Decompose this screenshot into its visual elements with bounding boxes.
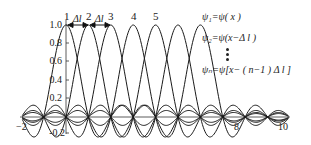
legend-psi1: ψ₁=ψ( x ) (202, 12, 241, 22)
y-tick-label: 0.6 (40, 56, 62, 66)
peak-label: 3 (108, 11, 114, 22)
peak-label: 2 (86, 11, 92, 22)
delta-l-annotation: Δl (95, 14, 104, 24)
peak-label: 5 (153, 11, 159, 22)
y-tick-label: -0.2 (43, 128, 65, 138)
y-tick-label: 0.4 (40, 75, 62, 85)
legend-psin: ψₙ=ψ[x− ( n−1 ) Δ l ] (202, 65, 291, 75)
y-tick-label: 0.2 (40, 93, 62, 103)
delta-l-annotation: Δl (73, 14, 82, 24)
x-tick-label: 8 (234, 122, 239, 132)
x-tick-label: 10 (278, 122, 288, 132)
y-tick-label: 1.0 (40, 20, 62, 30)
legend-ellipsis (226, 48, 229, 63)
x-tick-label: −2 (16, 122, 27, 132)
legend-psi2: ψ₂=ψ(x−Δ l ) (202, 33, 256, 43)
peak-label: 1 (64, 11, 70, 22)
y-tick-label: 0.8 (40, 38, 62, 48)
peak-label: 4 (131, 11, 137, 22)
